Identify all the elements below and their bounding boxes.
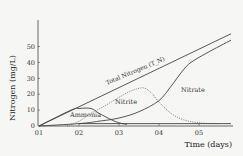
nitrate-label: Nitrate <box>181 86 205 94</box>
x-tick-label: 01 <box>35 129 43 137</box>
y-axis-title: Nitrogen (mg/L) <box>8 55 17 121</box>
y-tick-label: 50 <box>27 43 35 51</box>
y-tick-label: 20 <box>27 90 35 98</box>
nitrite-label: Nitrite <box>115 98 137 106</box>
total-nitrogen-label: Total Nitrogen (T_N) <box>105 55 166 87</box>
series-total-nitrogen-t-n <box>39 34 231 126</box>
y-tick-label: 40 <box>27 59 35 67</box>
x-tick-label: 05 <box>195 129 203 137</box>
series-nitrate <box>39 40 231 126</box>
x-axis-title: Time (days) <box>184 140 232 149</box>
axes: 010203040500102030405 <box>27 20 233 137</box>
ammonia-label: Ammonia <box>69 111 101 119</box>
y-tick-label: 30 <box>27 75 35 83</box>
y-tick-label: 10 <box>27 106 35 114</box>
series-group <box>39 34 231 126</box>
nitrogen-chart: 010203040500102030405 Nitrogen (mg/L) Ti… <box>0 0 243 156</box>
x-tick-label: 03 <box>115 129 123 137</box>
x-tick-label: 04 <box>155 129 163 137</box>
x-tick-label: 02 <box>75 129 83 137</box>
